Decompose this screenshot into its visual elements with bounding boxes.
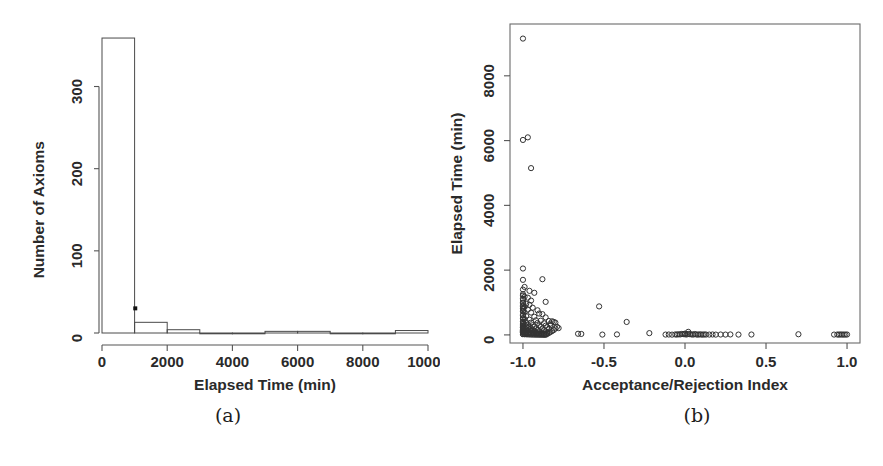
histogram-bar <box>200 333 233 334</box>
scatter-point <box>624 319 629 324</box>
scatter-point <box>540 277 545 282</box>
histogram-bar <box>265 331 298 333</box>
histogram-bar <box>102 38 135 333</box>
scatter-point <box>520 277 525 282</box>
scatter-point <box>528 166 533 171</box>
scatter-point <box>579 331 584 336</box>
y-tick-label: 0 <box>68 334 85 342</box>
x-tick-label: 10000 <box>407 353 440 370</box>
x-tick-label: 8000 <box>346 353 379 370</box>
x-tick-label: 2000 <box>151 353 184 370</box>
caption-b: (b) <box>667 404 727 426</box>
panel-scatter: 02000400060008000Elapsed Time (min)-1.0-… <box>440 0 883 400</box>
y-tick-label: 200 <box>68 161 85 186</box>
x-axis-title: Elapsed Time (min) <box>194 376 336 393</box>
caption-a: (a) <box>198 404 258 426</box>
x-tick-label: 6000 <box>281 353 314 370</box>
y-tick-label: 2000 <box>480 258 497 291</box>
scatter-point <box>532 290 537 295</box>
scatter-point <box>614 332 619 337</box>
scatter-point <box>736 332 741 337</box>
scatter-point <box>543 299 548 304</box>
panel-histogram: 0100200300Number of Axioms02000400060008… <box>0 0 440 400</box>
x-tick-label: 4000 <box>216 353 249 370</box>
scatter-point <box>520 137 525 142</box>
x-tick-label: 1.0 <box>837 353 858 370</box>
plot-frame <box>510 24 860 343</box>
y-tick-label: 4000 <box>480 194 497 227</box>
scatter-point <box>796 332 801 337</box>
x-tick-label: 0.0 <box>675 353 696 370</box>
y-axis-title: Elapsed Time (min) <box>448 113 465 255</box>
scatter-point <box>525 135 530 140</box>
scatter-point <box>647 331 652 336</box>
scatter-point <box>597 304 602 309</box>
x-axis-title: Acceptance/Rejection Index <box>582 376 788 393</box>
y-tick-label: 8000 <box>480 64 497 97</box>
x-tick-label: -0.5 <box>591 353 617 370</box>
y-tick-label: 6000 <box>480 129 497 162</box>
histogram-bar <box>363 333 396 334</box>
y-tick-label: 100 <box>68 243 85 268</box>
y-tick-label: 0 <box>480 336 497 344</box>
scatter-point <box>749 332 754 337</box>
y-tick-label: 300 <box>68 79 85 104</box>
histogram-bar <box>167 330 200 333</box>
x-tick-label: 0 <box>98 353 106 370</box>
scatter-point <box>600 332 605 337</box>
scatter-svg: 02000400060008000Elapsed Time (min)-1.0-… <box>440 0 883 400</box>
histogram-svg: 0100200300Number of Axioms02000400060008… <box>0 0 440 400</box>
figure-root: 0100200300Number of Axioms02000400060008… <box>0 0 883 466</box>
scatter-point <box>520 266 525 271</box>
histogram-bar <box>135 322 168 333</box>
scatter-point <box>540 312 545 317</box>
x-tick-label: -1.0 <box>510 353 536 370</box>
scatter-point <box>556 326 561 331</box>
histogram-bar <box>298 331 331 333</box>
histogram-bar <box>395 331 428 333</box>
histogram-bar <box>330 333 363 334</box>
outlier-marker-dot <box>133 306 137 310</box>
y-axis-title: Number of Axioms <box>30 141 47 278</box>
x-tick-label: 0.5 <box>756 353 777 370</box>
scatter-point <box>520 36 525 41</box>
histogram-bar <box>232 333 265 334</box>
